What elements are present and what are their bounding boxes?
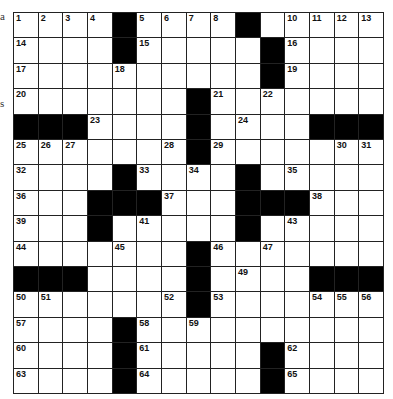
crossword-cell[interactable] (335, 369, 359, 393)
crossword-cell[interactable] (88, 369, 112, 393)
crossword-cell[interactable]: 19 (285, 64, 309, 88)
crossword-cell[interactable] (88, 242, 112, 266)
crossword-cell[interactable]: 65 (285, 369, 309, 393)
crossword-cell[interactable]: 51 (39, 292, 63, 316)
crossword-cell[interactable]: 55 (335, 292, 359, 316)
crossword-cell[interactable] (162, 165, 186, 189)
crossword-cell[interactable] (137, 89, 161, 113)
crossword-cell[interactable] (88, 165, 112, 189)
crossword-cell[interactable]: 38 (310, 191, 334, 215)
crossword-cell[interactable]: 61 (137, 343, 161, 367)
crossword-cell[interactable] (285, 292, 309, 316)
crossword-cell[interactable] (137, 64, 161, 88)
crossword-cell[interactable] (88, 343, 112, 367)
crossword-cell[interactable]: 63 (14, 369, 38, 393)
crossword-cell[interactable] (187, 369, 211, 393)
crossword-cell[interactable]: 6 (162, 13, 186, 37)
crossword-cell[interactable] (261, 267, 285, 291)
crossword-cell[interactable] (359, 38, 383, 62)
crossword-cell[interactable] (359, 89, 383, 113)
crossword-cell[interactable]: 34 (187, 165, 211, 189)
crossword-cell[interactable] (137, 292, 161, 316)
crossword-cell[interactable]: 12 (335, 13, 359, 37)
crossword-cell[interactable]: 60 (14, 343, 38, 367)
crossword-cell[interactable] (162, 115, 186, 139)
crossword-cell[interactable]: 20 (14, 89, 38, 113)
crossword-cell[interactable]: 62 (285, 343, 309, 367)
crossword-cell[interactable] (359, 318, 383, 342)
crossword-cell[interactable] (39, 318, 63, 342)
crossword-cell[interactable] (211, 343, 235, 367)
crossword-cell[interactable] (310, 140, 334, 164)
crossword-cell[interactable] (285, 318, 309, 342)
crossword-cell[interactable]: 41 (137, 216, 161, 240)
crossword-cell[interactable] (162, 267, 186, 291)
crossword-cell[interactable] (162, 64, 186, 88)
crossword-cell[interactable] (285, 115, 309, 139)
crossword-cell[interactable] (261, 216, 285, 240)
crossword-cell[interactable] (261, 115, 285, 139)
crossword-cell[interactable] (335, 216, 359, 240)
crossword-cell[interactable] (359, 216, 383, 240)
crossword-cell[interactable] (211, 64, 235, 88)
crossword-cell[interactable] (211, 38, 235, 62)
crossword-cell[interactable] (211, 369, 235, 393)
crossword-cell[interactable] (310, 369, 334, 393)
crossword-cell[interactable]: 54 (310, 292, 334, 316)
crossword-cell[interactable] (335, 89, 359, 113)
crossword-cell[interactable] (63, 318, 87, 342)
crossword-cell[interactable] (88, 318, 112, 342)
crossword-cell[interactable] (211, 267, 235, 291)
crossword-cell[interactable] (162, 369, 186, 393)
crossword-cell[interactable] (236, 343, 260, 367)
crossword-cell[interactable] (39, 343, 63, 367)
crossword-cell[interactable] (187, 216, 211, 240)
crossword-cell[interactable] (88, 64, 112, 88)
crossword-cell[interactable] (88, 267, 112, 291)
crossword-cell[interactable] (335, 38, 359, 62)
crossword-cell[interactable] (39, 165, 63, 189)
crossword-cell[interactable] (261, 292, 285, 316)
crossword-cell[interactable]: 32 (14, 165, 38, 189)
crossword-cell[interactable] (187, 38, 211, 62)
crossword-cell[interactable]: 47 (261, 242, 285, 266)
crossword-cell[interactable]: 22 (261, 89, 285, 113)
crossword-cell[interactable]: 35 (285, 165, 309, 189)
crossword-cell[interactable] (261, 13, 285, 37)
crossword-cell[interactable] (359, 343, 383, 367)
crossword-cell[interactable]: 8 (211, 13, 235, 37)
crossword-cell[interactable] (88, 292, 112, 316)
crossword-cell[interactable]: 14 (14, 38, 38, 62)
crossword-cell[interactable]: 36 (14, 191, 38, 215)
crossword-cell[interactable]: 25 (14, 140, 38, 164)
crossword-cell[interactable]: 58 (137, 318, 161, 342)
crossword-cell[interactable] (63, 292, 87, 316)
crossword-cell[interactable] (335, 242, 359, 266)
crossword-cell[interactable] (285, 242, 309, 266)
crossword-cell[interactable] (113, 89, 137, 113)
crossword-cell[interactable] (310, 64, 334, 88)
crossword-cell[interactable] (162, 38, 186, 62)
crossword-cell[interactable]: 56 (359, 292, 383, 316)
crossword-cell[interactable] (113, 216, 137, 240)
crossword-cell[interactable] (310, 343, 334, 367)
crossword-cell[interactable] (310, 38, 334, 62)
crossword-cell[interactable] (162, 216, 186, 240)
crossword-cell[interactable] (335, 165, 359, 189)
crossword-cell[interactable] (113, 292, 137, 316)
crossword-cell[interactable]: 23 (88, 115, 112, 139)
crossword-cell[interactable] (261, 140, 285, 164)
crossword-cell[interactable]: 33 (137, 165, 161, 189)
crossword-cell[interactable]: 15 (137, 38, 161, 62)
crossword-cell[interactable] (113, 267, 137, 291)
crossword-cell[interactable] (359, 64, 383, 88)
crossword-cell[interactable]: 57 (14, 318, 38, 342)
crossword-cell[interactable]: 2 (39, 13, 63, 37)
crossword-cell[interactable] (359, 242, 383, 266)
crossword-cell[interactable] (187, 343, 211, 367)
crossword-cell[interactable]: 64 (137, 369, 161, 393)
crossword-cell[interactable] (137, 115, 161, 139)
crossword-cell[interactable]: 30 (335, 140, 359, 164)
crossword-cell[interactable] (63, 369, 87, 393)
crossword-cell[interactable]: 46 (211, 242, 235, 266)
